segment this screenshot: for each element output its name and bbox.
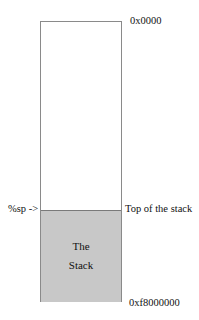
stack-region: The Stack	[41, 210, 121, 302]
stack-label-line2: Stack	[41, 256, 121, 275]
high-address-label: 0xf8000000	[129, 297, 180, 308]
low-address-label: 0x0000	[130, 15, 162, 26]
stack-pointer-label: %sp ->	[8, 203, 38, 214]
top-of-stack-label: Top of the stack	[125, 203, 192, 214]
memory-box: The Stack	[40, 21, 122, 302]
stack-label-line1: The	[41, 237, 121, 256]
stack-label: The Stack	[41, 237, 121, 275]
